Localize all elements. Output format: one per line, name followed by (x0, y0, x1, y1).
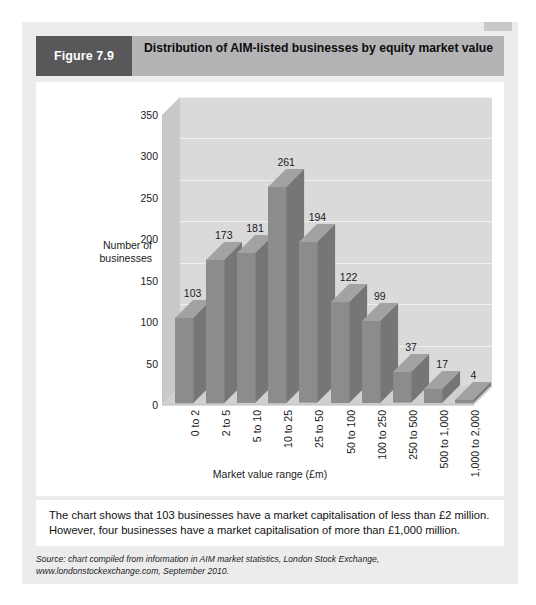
scan-artifact (484, 22, 512, 31)
bar (268, 189, 286, 405)
y-tick-label: 0 (152, 399, 158, 411)
y-axis-tick-labels: 050100150200250300350 (122, 107, 158, 397)
y-tick-label: 150 (140, 275, 158, 287)
bar (393, 374, 411, 405)
figure-header: Figure 7.9 Distribution of AIM-listed bu… (36, 36, 504, 76)
bar-value-label: 122 (325, 271, 373, 283)
bar (424, 391, 442, 405)
x-category-label: 2 to 5 (220, 410, 232, 436)
bar-3d (455, 382, 493, 405)
bar (206, 262, 224, 405)
bar-value-label: 261 (262, 156, 310, 168)
y-tick-label: 250 (140, 192, 158, 204)
figure-card: Figure 7.9 Distribution of AIM-listed bu… (22, 22, 518, 584)
x-category-label: 50 to 100 (345, 410, 357, 454)
caption-line-2: However, four businesses have a market c… (49, 523, 492, 538)
bar (331, 304, 349, 405)
bar (299, 244, 317, 405)
x-category-label: 0 to 2 (189, 410, 201, 436)
chart-panel: Number of businesses 0501001502002503003… (36, 82, 504, 496)
bar (362, 323, 380, 405)
bar-value-label: 37 (387, 341, 435, 353)
x-axis-title: Market value range (£m) (36, 468, 504, 480)
y-tick-label: 50 (146, 358, 158, 370)
figure-number-badge: Figure 7.9 (36, 36, 132, 76)
y-tick-label: 200 (140, 233, 158, 245)
bar (175, 320, 193, 405)
bar-value-label: 99 (356, 290, 404, 302)
x-category-label: 100 to 250 (376, 410, 388, 460)
bar-value-label: 194 (293, 211, 341, 223)
bars-layer: 1031731812611941229937174 (162, 97, 492, 417)
x-category-label: 250 to 500 (407, 410, 419, 460)
caption-box: The chart shows that 103 businesses have… (36, 500, 504, 546)
bar (455, 402, 473, 405)
y-tick-label: 300 (140, 150, 158, 162)
figure-title: Distribution of AIM-listed businesses by… (132, 36, 504, 76)
bar (237, 255, 255, 405)
x-category-label: 10 to 25 (282, 410, 294, 448)
caption-line-1: The chart shows that 103 businesses have… (49, 508, 492, 523)
x-category-label: 500 to 1,000 (438, 410, 450, 468)
y-tick-label: 100 (140, 316, 158, 328)
x-category-label: 5 to 10 (251, 410, 263, 442)
y-tick-label: 350 (140, 109, 158, 121)
source-note: Source: chart compiled from information … (36, 553, 506, 577)
plot-area: 1031731812611941229937174 (162, 97, 492, 417)
bar-value-label: 4 (449, 369, 497, 381)
x-category-label: 25 to 50 (313, 410, 325, 448)
